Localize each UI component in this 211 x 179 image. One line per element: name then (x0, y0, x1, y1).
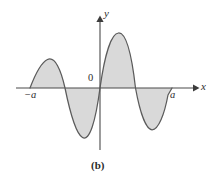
x-axis-label: x (201, 81, 206, 92)
shaded-area-lobe-2 (65, 88, 100, 138)
shaded-area-group (30, 33, 172, 138)
x-axis-arrowhead-icon (193, 84, 200, 91)
x-tick-label-negative-a: −a (24, 90, 36, 101)
shaded-area-lobe-1 (30, 59, 65, 88)
y-axis-arrowhead-icon (96, 16, 103, 23)
origin-label: 0 (88, 73, 93, 84)
x-tick-label-positive-a: a (170, 90, 175, 101)
y-axis-label: y (104, 8, 109, 19)
shaded-area-lobe-4 (136, 88, 173, 130)
figure-container: y x 0 −a a (b) (0, 0, 211, 179)
figure-caption: (b) (91, 160, 104, 171)
